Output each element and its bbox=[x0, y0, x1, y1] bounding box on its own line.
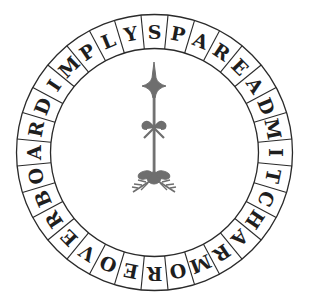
wheel-letter-cell: H bbox=[241, 206, 269, 233]
wheel-letter-cell: O bbox=[168, 259, 189, 284]
cell-divider bbox=[17, 163, 51, 166]
wheel-letter-cell: R bbox=[146, 263, 162, 285]
wheel-letter-cell: Y bbox=[121, 22, 140, 47]
wheel-letter-cell: A bbox=[189, 27, 212, 53]
wheel-letter-cell: R bbox=[40, 207, 67, 233]
wheel-letter-cell: A bbox=[23, 145, 45, 161]
center-ornament-icon bbox=[132, 62, 176, 192]
wheel-letter-cell: E bbox=[227, 54, 253, 80]
leaf-cluster-icon bbox=[132, 169, 176, 192]
wheel-letter-cell: V bbox=[74, 239, 100, 267]
cell-divider bbox=[165, 256, 168, 290]
wheel-letter-cell: R bbox=[209, 240, 235, 267]
stem-line bbox=[153, 96, 155, 176]
wheel-letter-cell: I bbox=[265, 148, 287, 157]
wheel-letter-cell: O bbox=[23, 166, 48, 187]
wheel-letter-cell: M bbox=[54, 52, 84, 82]
wheel-letter-cell: E bbox=[56, 225, 82, 251]
wheel-letter-cell: E bbox=[122, 259, 140, 283]
wheel-letter-cell: I bbox=[42, 75, 65, 95]
wheel-letter-cell: T bbox=[261, 167, 285, 185]
cell-divider bbox=[258, 139, 292, 142]
cell-divider bbox=[141, 256, 144, 290]
cell-divider bbox=[258, 163, 292, 166]
wheel-letter-cell: L bbox=[98, 28, 119, 53]
word-wheel-puzzle: SPAREADMITCHARMOREOVERBOARDIMPLY bbox=[0, 0, 309, 308]
cell-divider bbox=[165, 15, 168, 49]
letter-wheel: SPAREADMITCHARMOREOVERBOARDIMPLY bbox=[0, 0, 309, 308]
wheel-letter-cell: P bbox=[169, 22, 187, 46]
cell-divider bbox=[17, 139, 51, 142]
wheel-letter-cell: M bbox=[260, 116, 286, 141]
star-spike-icon bbox=[142, 62, 166, 98]
wheel-letter-cell: R bbox=[23, 119, 48, 139]
wheel-letter-cell: S bbox=[148, 21, 162, 43]
cell-divider bbox=[141, 15, 144, 49]
wheel-letter-cell: A bbox=[227, 224, 254, 251]
wheel-letter-cell: C bbox=[253, 188, 279, 210]
